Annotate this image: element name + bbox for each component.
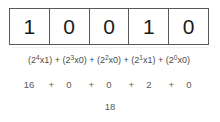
expression-plus-operator: + bbox=[121, 55, 131, 66]
power-term-close: ) bbox=[187, 55, 190, 65]
binary-digit-value: 1 bbox=[143, 16, 155, 37]
sum-term-value: 2 bbox=[146, 79, 151, 91]
power-term-multiplier: x1 bbox=[40, 55, 50, 65]
power-term-multiplier: x0 bbox=[74, 55, 84, 65]
binary-digit-value: 0 bbox=[103, 16, 115, 37]
sum-term-slot: 2 + bbox=[129, 79, 169, 91]
binary-digit-cell: 0 bbox=[50, 9, 90, 44]
sum-term-value: 0 bbox=[186, 79, 191, 91]
total-row: 18 bbox=[0, 100, 220, 114]
power-term-open: (2 bbox=[166, 55, 174, 65]
power-term-multiplier: x0 bbox=[109, 55, 119, 65]
sum-term-value: 0 bbox=[66, 79, 71, 91]
power-expression-term: (21x1) bbox=[131, 55, 155, 66]
power-term-multiplier: x1 bbox=[143, 55, 153, 65]
power-term-open: (2 bbox=[28, 55, 36, 65]
binary-digit-value: 0 bbox=[183, 16, 195, 37]
total-value: 18 bbox=[105, 101, 116, 113]
sum-term-slot: 0 + bbox=[49, 79, 89, 91]
binary-digit-cell: 1 bbox=[129, 9, 169, 44]
power-expression-row: (24x1) + (23x0) + (22x0) + (21x1) + (20x… bbox=[9, 52, 209, 68]
expression-plus-operator: + bbox=[52, 55, 62, 66]
binary-digit-cell: 0 bbox=[90, 9, 130, 44]
power-term-multiplier: x0 bbox=[177, 55, 187, 65]
sum-term-slot: 0 + bbox=[89, 79, 129, 91]
sum-term-slot: 0 + bbox=[169, 79, 209, 91]
expression-plus-operator: + bbox=[87, 55, 97, 66]
power-term-open: (2 bbox=[97, 55, 105, 65]
sum-term-value: 0 bbox=[106, 79, 111, 91]
sum-term-slot: 16 + bbox=[9, 79, 49, 91]
binary-digit-value: 0 bbox=[63, 16, 75, 37]
binary-digit-cell: 0 bbox=[169, 9, 208, 44]
power-expression-term: (20x0) bbox=[166, 55, 190, 66]
power-expression-term: (24x1) bbox=[28, 55, 52, 66]
expression-plus-operator: + bbox=[156, 55, 166, 66]
sum-term-value: 16 bbox=[24, 79, 35, 91]
faint-separator-rule bbox=[12, 47, 208, 48]
binary-place-value-diagram: 1 0 0 1 0 (24x1) + (23x0) + (22x0) + (21… bbox=[0, 0, 220, 122]
sum-terms-row: 16 + 0 + 0 + 2 + 0 + bbox=[9, 78, 209, 92]
binary-digit-cell: 1 bbox=[10, 9, 50, 44]
power-expression-term: (23x0) bbox=[63, 55, 87, 66]
binary-digit-row: 1 0 0 1 0 bbox=[9, 8, 209, 45]
binary-digit-value: 1 bbox=[24, 16, 36, 37]
power-term-open: (2 bbox=[63, 55, 71, 65]
power-expression-term: (22x0) bbox=[97, 55, 121, 66]
